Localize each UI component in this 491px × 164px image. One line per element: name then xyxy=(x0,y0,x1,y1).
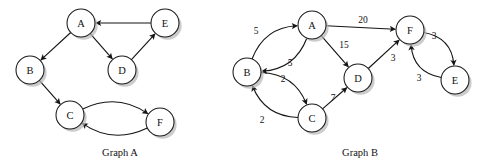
graph-a-nodes: AEBDCF xyxy=(16,9,182,139)
edge-A-to-D xyxy=(90,34,112,59)
node-label: F xyxy=(157,117,163,128)
edge-weight-A-F: 20 xyxy=(358,15,368,25)
node-graph-a-B[interactable]: B xyxy=(16,56,47,87)
edge-A-to-B xyxy=(41,32,70,59)
node-graph-b-F[interactable]: F xyxy=(396,16,427,47)
graph-figure: AEBDCFGraph A552015227333AFBDECGraph B xyxy=(0,0,491,164)
node-label: D xyxy=(118,65,126,76)
node-label: C xyxy=(66,110,73,121)
graph-b: 552015227333AFBDECGraph B xyxy=(233,11,472,158)
edge-A-to-B xyxy=(262,38,307,71)
edge-weight-A-B: 5 xyxy=(288,58,293,68)
edge-weight-F-E: 3 xyxy=(432,31,437,41)
node-label: E xyxy=(452,75,458,86)
edge-weight-A-D: 15 xyxy=(339,40,349,50)
node-label: D xyxy=(354,73,362,84)
node-graph-a-E[interactable]: E xyxy=(151,9,182,40)
graph-b-caption: Graph B xyxy=(342,147,378,158)
node-label: B xyxy=(243,67,250,78)
edge-weight-D-F: 3 xyxy=(391,53,396,63)
node-label: F xyxy=(407,25,413,36)
edge-weight-C-B: 2 xyxy=(260,115,265,125)
edge-F-to-E xyxy=(424,33,454,65)
edge-C-to-B xyxy=(253,86,298,117)
node-graph-b-C[interactable]: C xyxy=(298,104,329,135)
node-label: C xyxy=(308,113,315,124)
edge-B-to-C xyxy=(39,80,60,103)
edge-A-to-F xyxy=(326,26,395,30)
node-graph-a-A[interactable]: A xyxy=(67,9,98,40)
edge-F-to-C xyxy=(83,124,148,136)
edge-weight-B-A: 5 xyxy=(254,26,259,36)
graph-a-caption: Graph A xyxy=(102,147,138,158)
node-label: A xyxy=(77,18,85,29)
figure-canvas: AEBDCFGraph A552015227333AFBDECGraph B xyxy=(0,0,491,164)
graph-a: AEBDCFGraph A xyxy=(16,9,182,158)
node-graph-a-D[interactable]: D xyxy=(108,56,139,87)
node-label: A xyxy=(308,20,316,31)
edge-weight-B-C: 2 xyxy=(281,74,286,84)
node-graph-b-A[interactable]: A xyxy=(298,11,329,42)
node-graph-b-D[interactable]: D xyxy=(344,64,375,95)
node-label: B xyxy=(26,65,33,76)
node-graph-a-F[interactable]: F xyxy=(146,108,177,139)
node-graph-b-E[interactable]: E xyxy=(441,66,472,97)
arrowhead-C-to-F xyxy=(142,108,149,114)
node-label: E xyxy=(162,18,168,29)
node-graph-b-B[interactable]: B xyxy=(233,58,264,89)
edge-C-to-F xyxy=(83,102,148,114)
edge-weight-E-F: 3 xyxy=(417,73,422,83)
edge-D-to-E xyxy=(131,34,154,59)
edge-B-to-A xyxy=(252,26,297,59)
node-graph-a-C[interactable]: C xyxy=(56,101,87,132)
edge-weight-C-D: 7 xyxy=(331,93,336,103)
